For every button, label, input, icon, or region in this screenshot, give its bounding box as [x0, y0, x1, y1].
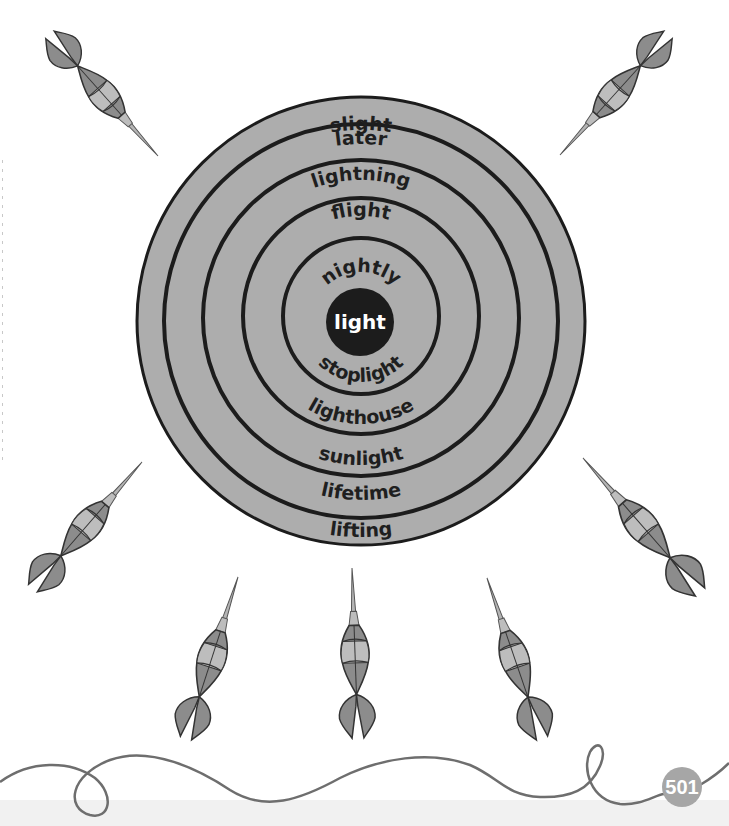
dart-top-right: [547, 24, 680, 167]
dart-icon: [547, 24, 680, 167]
dartboard-illustration: slight later lightning flight nightly li…: [0, 0, 729, 826]
dart-left: [20, 451, 156, 600]
dart-icon: [334, 567, 376, 738]
dart-bottom-right: [470, 572, 559, 744]
center-word: light: [334, 310, 386, 334]
dart-icon: [569, 446, 714, 605]
dart-icon: [470, 572, 559, 744]
dart-icon: [37, 24, 170, 168]
dart-icon: [20, 451, 156, 600]
ring-word-lifting: lifting: [329, 517, 394, 541]
decorative-string: [0, 745, 664, 815]
dart-bottom-center: [334, 567, 376, 738]
dart-right: [569, 446, 714, 605]
target: slight later lightning flight nightly li…: [137, 97, 585, 545]
ring-word-later: later: [334, 126, 389, 150]
page-number: 501: [665, 776, 698, 798]
dart-bottom-left: [169, 572, 255, 744]
dart-top-left: [37, 24, 170, 168]
dart-icon: [169, 572, 255, 744]
decorative-string-end: [700, 763, 729, 785]
